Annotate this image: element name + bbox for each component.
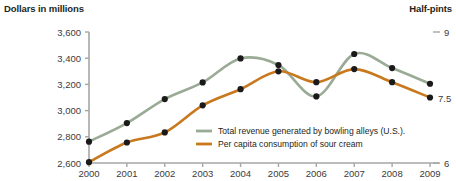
data-point-marker <box>162 129 168 135</box>
data-point-marker <box>86 159 92 165</box>
data-point-marker <box>351 66 357 72</box>
x-axis-tick-label: 2003 <box>192 168 213 179</box>
data-point-marker <box>124 120 130 126</box>
data-point-marker <box>275 62 281 68</box>
y-axis-tick-label: 3,200 <box>57 79 81 90</box>
data-point-marker <box>389 65 395 71</box>
data-point-marker <box>237 55 243 61</box>
data-annotations: 7.5 <box>438 93 451 104</box>
data-point-marker <box>200 79 206 85</box>
legend-label: Total revenue generated by bowling alley… <box>218 126 405 136</box>
x-axis-tick-label: 2007 <box>344 168 365 179</box>
chart-legend: Total revenue generated by bowling alley… <box>196 126 405 149</box>
x-axis-tick-label: 2000 <box>78 168 99 179</box>
data-point-marker <box>200 102 206 108</box>
x-axis-tick-label: 2006 <box>306 168 327 179</box>
y-axis-tick-label: 3,400 <box>57 53 81 64</box>
x-axis-tick-label: 2001 <box>116 168 137 179</box>
y-axis-tick-label: 2,800 <box>57 131 81 142</box>
line-chart-plot: 2,6002,8003,0003,2003,4003,600 200020012… <box>0 0 456 181</box>
secondary-y-axis-bottom-tick: 6 <box>444 158 449 169</box>
data-point-marker <box>313 93 319 99</box>
data-point-marker <box>389 79 395 85</box>
data-point-marker <box>427 94 433 100</box>
data-point-marker <box>351 51 357 57</box>
x-axis-tick-label: 2008 <box>382 168 403 179</box>
data-point-marker <box>124 139 130 145</box>
data-point-marker <box>86 139 92 145</box>
data-point-marker <box>162 96 168 102</box>
data-point-value-label: 7.5 <box>438 93 451 104</box>
x-axis-tick-label: 2009 <box>419 168 440 179</box>
y-axis-tick-label: 2,600 <box>57 158 81 169</box>
data-point-marker <box>427 81 433 87</box>
secondary-y-axis-top-tick: 9 <box>444 27 449 38</box>
x-axis-tick-label: 2004 <box>230 168 251 179</box>
x-axis: 2000200120022003200420052006200720082009 <box>78 163 440 179</box>
data-point-marker <box>313 79 319 85</box>
data-point-marker <box>237 86 243 92</box>
x-axis-tick-label: 2002 <box>154 168 175 179</box>
data-point-marker <box>275 68 281 74</box>
chart-container: Dollars in millions Half-pints 2,6002,80… <box>0 0 456 181</box>
y-axis: 2,6002,8003,0003,2003,4003,600 <box>57 27 89 169</box>
y-axis-tick-label: 3,000 <box>57 105 81 116</box>
x-axis-tick-label: 2005 <box>268 168 289 179</box>
legend-label: Per capita consumption of sour cream <box>218 139 363 149</box>
y-axis-tick-label: 3,600 <box>57 27 81 38</box>
